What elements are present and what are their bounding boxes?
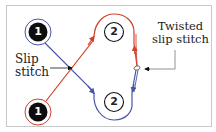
twisted-label-line2: slip stitch (152, 33, 209, 46)
slip-stitch-label: Slip stitch (15, 53, 49, 79)
slip-stitch-label-line2: stitch (15, 66, 49, 79)
node-bottom-2-label: 2 (104, 92, 124, 112)
red-arrow-right (135, 48, 136, 54)
twisted-slip-stitch-label: Twisted slip stitch (152, 20, 209, 46)
node-top-1-label: 1 (28, 22, 48, 42)
node-top-2-label: 2 (104, 22, 124, 42)
node-bottom-1-label: 1 (28, 102, 48, 122)
